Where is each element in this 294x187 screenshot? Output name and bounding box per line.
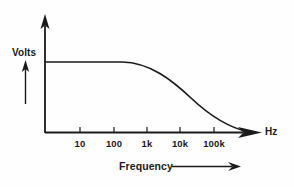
x-tick-label-10: 10 bbox=[75, 138, 86, 149]
plot-canvas bbox=[0, 0, 294, 187]
volts-arrow-indicator bbox=[22, 60, 29, 104]
x-axis-ticks bbox=[80, 127, 214, 132]
frequency-arrow-indicator bbox=[172, 162, 241, 171]
frequency-response-figure: Volts Hz Frequency 10 100 1k 10k 100k bbox=[0, 0, 294, 187]
x-tick-label-100k: 100k bbox=[203, 138, 225, 149]
x-tick-label-10k: 10k bbox=[172, 138, 188, 149]
x-tick-label-100: 100 bbox=[106, 138, 122, 149]
y-axis-label: Volts bbox=[12, 47, 36, 58]
response-curve bbox=[46, 62, 250, 132]
x-tick-label-1k: 1k bbox=[142, 138, 153, 149]
x-axis-title: Frequency bbox=[119, 160, 173, 172]
x-axis-unit-label: Hz bbox=[265, 126, 277, 137]
